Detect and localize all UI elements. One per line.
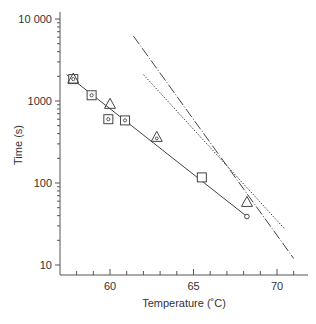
fit-dashdot-line bbox=[133, 36, 293, 258]
circle-marker bbox=[245, 214, 250, 219]
y-tick-label: 100 bbox=[34, 177, 52, 189]
x-axis-title: Temperature (˚C) bbox=[142, 297, 226, 309]
square-dot-marker bbox=[121, 116, 130, 125]
y-tick-label: 10 000 bbox=[18, 13, 52, 25]
triangle-marker bbox=[105, 98, 116, 108]
square-marker bbox=[197, 173, 206, 182]
y-tick-label: 10 bbox=[40, 259, 52, 271]
y-axis-title: Time (s) bbox=[12, 125, 24, 165]
x-tick-label: 70 bbox=[271, 280, 283, 292]
square-dot-marker bbox=[104, 115, 113, 124]
chart: 10100100010 000606570Temperature (˚C)Tim… bbox=[0, 0, 316, 324]
y-tick-label: 1000 bbox=[28, 95, 52, 107]
x-tick-label: 65 bbox=[187, 280, 199, 292]
x-tick-label: 60 bbox=[104, 280, 116, 292]
triangle-marker bbox=[241, 196, 252, 206]
triangle-dot-marker bbox=[155, 137, 158, 140]
square-dot-marker bbox=[87, 91, 96, 100]
